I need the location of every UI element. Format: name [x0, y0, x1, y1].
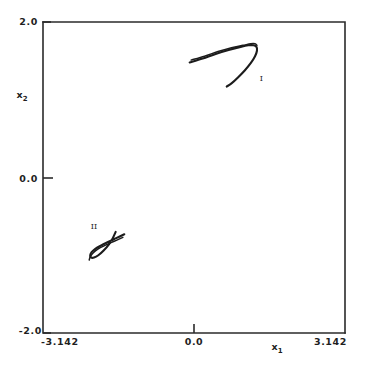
y-tick-label-top: 2.0	[19, 16, 38, 27]
x-tick-label-right: 3.142	[314, 336, 347, 347]
x-tick-label-left: -3.142	[41, 336, 79, 347]
y-tick-label-middle: 0.0	[19, 173, 38, 184]
axis-left-bottom	[43, 22, 345, 333]
curve-i	[190, 45, 257, 86]
data-curves-group	[89, 44, 257, 260]
curve-label-ii: II	[91, 222, 97, 231]
y-axis-ticks	[43, 22, 53, 333]
x-axis-title: x1	[271, 341, 282, 355]
x-tick-label-middle: 0.0	[185, 336, 204, 347]
y-axis-title: x2	[16, 89, 27, 103]
axis-top-right	[43, 22, 345, 333]
curve-label-i: I	[260, 74, 263, 83]
chart-canvas: 2.0 0.0 -2.0 -3.142 0.0 3.142 x2 x1 III	[0, 0, 373, 366]
plot-frame	[43, 22, 345, 333]
phase-portrait-figure: 2.0 0.0 -2.0 -3.142 0.0 3.142 x2 x1 III	[0, 0, 373, 366]
y-tick-label-bottom: -2.0	[19, 325, 42, 336]
curve-annotations-group: III	[91, 74, 263, 231]
